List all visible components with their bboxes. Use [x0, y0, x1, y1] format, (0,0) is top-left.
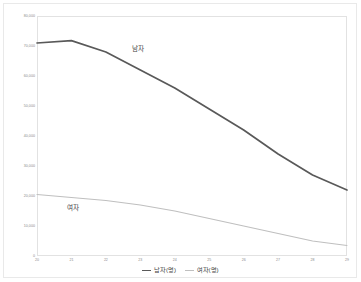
- legend-item[interactable]: 여자(명): [185, 266, 219, 274]
- y-axis-tick-label: 70,000: [7, 44, 35, 48]
- legend-line-icon: [185, 270, 194, 271]
- y-axis-tick-label: 30,000: [7, 164, 35, 168]
- y-axis: 010,00020,00030,00040,00050,00060,00070,…: [4, 16, 35, 256]
- x-axis-tick-label: 26: [234, 257, 254, 263]
- line-chart: 010,00020,00030,00040,00050,00060,00070,…: [4, 4, 356, 277]
- plot-area: [37, 16, 347, 256]
- chart-page: 010,00020,00030,00040,00050,00060,00070,…: [0, 0, 361, 282]
- legend-label: 남자(명): [154, 266, 176, 274]
- series-annotation-female: 여자: [67, 204, 79, 212]
- x-axis-tick-label: 21: [61, 257, 81, 263]
- y-axis-tick-label: 20,000: [7, 194, 35, 198]
- x-axis-tick-label: 24: [165, 257, 185, 263]
- y-axis-tick-label: 80,000: [7, 14, 35, 18]
- legend-line-icon: [142, 270, 151, 271]
- y-axis-tick-label: 50,000: [7, 104, 35, 108]
- y-axis-tick-label: 40,000: [7, 134, 35, 138]
- legend-label: 여자(명): [197, 266, 219, 274]
- series-annotation-male: 남자: [132, 45, 144, 53]
- x-axis-tick-label: 29: [337, 257, 357, 263]
- y-axis-tick-label: 60,000: [7, 74, 35, 78]
- x-axis-tick-label: 25: [199, 257, 219, 263]
- legend-item[interactable]: 남자(명): [142, 266, 176, 274]
- y-axis-tick-label: 10,000: [7, 224, 35, 228]
- series-line-male: [37, 41, 347, 190]
- series-lines: [37, 41, 347, 246]
- x-axis-tick-label: 22: [96, 257, 116, 263]
- x-axis-tick-label: 27: [268, 257, 288, 263]
- series-line-female: [37, 195, 347, 246]
- x-axis-tick-label: 20: [27, 257, 47, 263]
- x-axis-tick-label: 28: [303, 257, 323, 263]
- x-axis-tick-label: 23: [130, 257, 150, 263]
- chart-legend: 남자(명)여자(명): [0, 264, 361, 276]
